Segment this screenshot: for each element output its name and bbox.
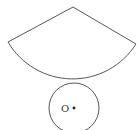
base-circle — [49, 83, 99, 130]
sector-shape — [8, 7, 136, 79]
cone-net-diagram: O — [0, 0, 138, 130]
center-label: O — [61, 103, 69, 114]
center-point — [73, 107, 76, 110]
